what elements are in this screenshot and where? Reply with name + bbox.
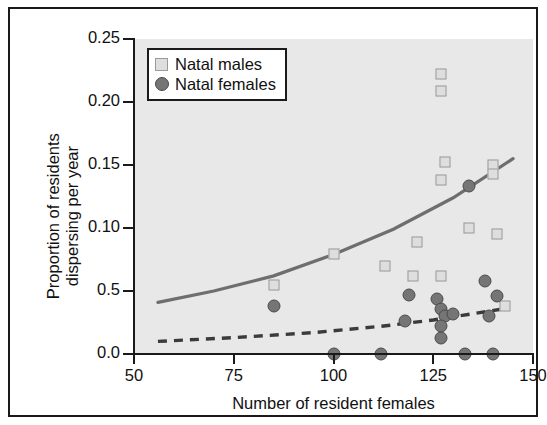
natal-males-point-13	[492, 229, 503, 240]
open-square-icon	[155, 58, 168, 71]
y-tick-label-5: 0.25	[15, 28, 120, 47]
x-tick-0	[133, 354, 135, 364]
y-tick-2	[123, 227, 134, 229]
natal-males-point-14	[500, 301, 511, 312]
legend-item-natal-males: Natal males	[155, 54, 276, 74]
natal-males-point-11	[488, 168, 499, 179]
y-tick-3	[123, 164, 134, 166]
natal-males-point-1	[328, 249, 339, 260]
x-tick-2	[333, 354, 335, 364]
natal-females-point-10	[447, 307, 460, 320]
y-axis-title: Proportion of residents dispersing per y…	[44, 101, 82, 331]
natal-males-point-12	[464, 223, 475, 234]
natal-males-point-6	[436, 69, 447, 80]
legend-label-natal-males: Natal males	[175, 55, 262, 74]
legend-item-natal-females: Natal females	[155, 74, 276, 94]
natal-females-point-12	[463, 180, 476, 193]
y-axis-title-line1: Proportion of residents	[44, 133, 62, 299]
x-tick-label-3: 125	[419, 366, 447, 385]
x-tick-label-0: 50	[125, 366, 143, 385]
natal-females-point-9	[435, 331, 448, 344]
natal-males-point-9	[436, 175, 447, 186]
y-axis-line	[133, 38, 135, 356]
x-tick-1	[233, 354, 235, 364]
x-tick-4	[532, 354, 534, 364]
legend-label-natal-females: Natal females	[175, 75, 276, 94]
legend: Natal males Natal females	[147, 48, 287, 101]
x-tick-3	[432, 354, 434, 364]
natal-males-point-8	[440, 157, 451, 168]
y-tick-label-0: 0.0	[15, 343, 120, 362]
y-tick-5	[123, 38, 134, 40]
natal-females-point-0	[267, 300, 280, 313]
x-tick-label-1: 75	[225, 366, 243, 385]
natal-males-point-0	[268, 279, 279, 290]
figure-frame: 0.00.50.100.150.200.25 5075100125150 Num…	[8, 7, 538, 417]
natal-males-point-7	[436, 85, 447, 96]
natal-females-point-15	[491, 290, 504, 303]
natal-females-point-3	[403, 288, 416, 301]
natal-males-point-4	[408, 270, 419, 281]
natal-males-point-2	[380, 260, 391, 271]
x-tick-label-2: 100	[320, 366, 348, 385]
natal-males-point-3	[412, 236, 423, 247]
filled-circle-icon	[155, 77, 169, 91]
males-fit-curve	[158, 159, 513, 303]
y-tick-4	[123, 101, 134, 103]
y-axis-title-line2: dispersing per year	[63, 146, 81, 286]
x-axis-title: Number of resident females	[134, 394, 533, 413]
natal-females-point-4	[399, 315, 412, 328]
natal-females-point-14	[479, 274, 492, 287]
y-tick-1	[123, 290, 134, 292]
x-tick-label-4: 150	[519, 366, 547, 385]
natal-males-point-5	[436, 270, 447, 281]
natal-females-point-16	[483, 310, 496, 323]
